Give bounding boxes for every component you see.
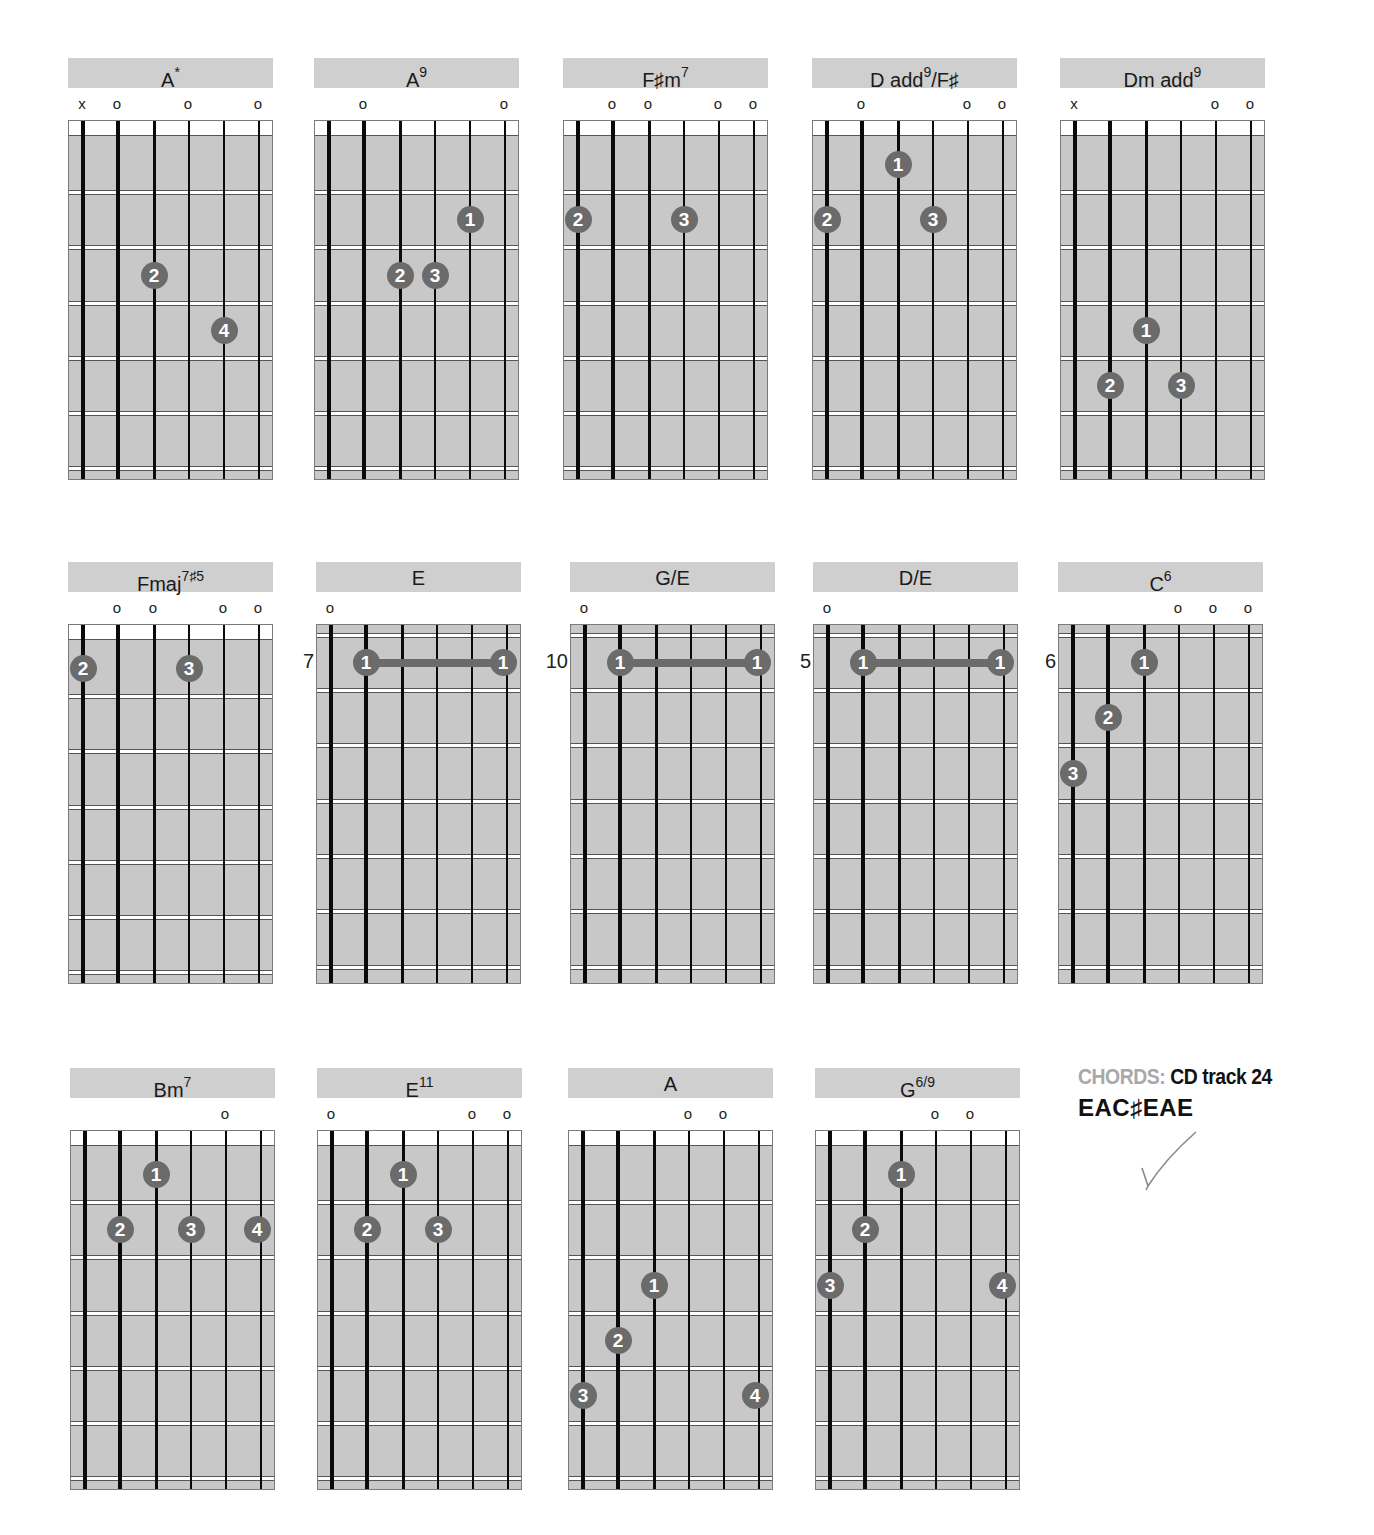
chord-root: A — [664, 1073, 677, 1095]
guitar-string — [364, 625, 368, 983]
fret-line — [571, 909, 774, 914]
guitar-string — [760, 625, 761, 983]
guitar-string — [1215, 121, 1217, 479]
finger-dot: 2 — [814, 206, 841, 233]
fret-line — [1061, 466, 1264, 471]
chord-diagram-d-over-e: D/Eo115 — [813, 562, 1018, 992]
guitar-string — [648, 121, 651, 479]
fret-line — [816, 1366, 1019, 1371]
finger-dot: 1 — [888, 1161, 915, 1188]
nut — [71, 1131, 274, 1146]
chord-name: D/E — [813, 562, 1018, 592]
fret-line — [315, 190, 518, 195]
fret-line — [317, 854, 520, 859]
finger-dot: 1 — [457, 206, 484, 233]
guitar-string — [1106, 625, 1110, 983]
chords-caption: CHORDS: CD track 24 EAC♯EAE — [1078, 1064, 1298, 1122]
chord-name: E — [316, 562, 521, 592]
chord-extension: 9 — [419, 64, 427, 80]
guitar-string — [436, 625, 439, 983]
guitar-string — [153, 625, 156, 983]
open-string-icon: o — [322, 600, 338, 616]
guitar-string — [1180, 121, 1183, 479]
fret-line — [315, 245, 518, 250]
fretboard: 123 — [1058, 624, 1263, 984]
guitar-string — [365, 1131, 369, 1489]
fret-position-label: 5 — [791, 650, 811, 673]
fretboard: 11 — [813, 624, 1018, 984]
finger-dot: 1 — [353, 649, 380, 676]
open-string-icon: o — [853, 96, 869, 112]
muted-string-icon: x — [1066, 96, 1082, 112]
finger-dot: 3 — [671, 206, 698, 233]
open-string-icon: o — [1205, 600, 1221, 616]
string-markers: o — [70, 1106, 275, 1124]
fret-line — [1061, 301, 1264, 306]
fret-line — [814, 909, 1017, 914]
fret-line — [569, 1200, 772, 1205]
fret-line — [317, 909, 520, 914]
fret-line — [315, 466, 518, 471]
guitar-string — [153, 121, 156, 479]
fret-line — [814, 633, 1017, 638]
open-string-icon: o — [180, 96, 196, 112]
chord-name: G6/9 — [815, 1068, 1020, 1098]
fret-line — [569, 1255, 772, 1260]
guitar-string — [190, 1131, 193, 1489]
guitar-string — [826, 625, 830, 983]
fret-line — [69, 970, 272, 975]
open-string-icon: o — [576, 600, 592, 616]
guitar-string — [967, 121, 969, 479]
string-markers: xoo — [1060, 96, 1265, 114]
open-string-icon: o — [962, 1106, 978, 1122]
chord-diagram-g6-9: G6/9oo1234 — [815, 1068, 1020, 1498]
fret-line — [71, 1200, 274, 1205]
chord-diagram-e11: E11ooo123 — [317, 1068, 522, 1498]
guitar-string — [83, 1131, 87, 1489]
finger-dot: 3 — [1060, 760, 1087, 787]
chord-diagram-a-star: A*xooo24 — [68, 58, 273, 488]
fret-line — [814, 688, 1017, 693]
guitar-string — [1248, 625, 1249, 983]
chord-name: F♯m7 — [563, 58, 768, 88]
fret-line — [569, 1476, 772, 1481]
fret-line — [318, 1200, 521, 1205]
guitar-string — [898, 625, 901, 983]
finger-dot: 3 — [570, 1382, 597, 1409]
guitar-string — [223, 121, 225, 479]
nut — [318, 1131, 521, 1146]
chord-root: F♯m — [642, 69, 681, 91]
fretboard: 1234 — [815, 1130, 1020, 1490]
guitar-string — [1073, 121, 1077, 479]
fret-line — [71, 1366, 274, 1371]
fret-line — [571, 965, 774, 970]
open-string-icon: o — [250, 600, 266, 616]
fret-line — [569, 1311, 772, 1316]
finger-dot: 2 — [387, 262, 414, 289]
guitar-string — [581, 1131, 585, 1489]
guitar-string — [935, 1131, 938, 1489]
finger-dot: 4 — [742, 1382, 769, 1409]
fretboard: 123 — [1060, 120, 1265, 480]
guitar-string — [616, 1131, 620, 1489]
fret-line — [564, 190, 767, 195]
finger-dot: 2 — [852, 1216, 879, 1243]
guitar-string — [611, 121, 615, 479]
chord-root: C — [1149, 573, 1163, 595]
guitar-string — [690, 625, 693, 983]
fret-line — [71, 1255, 274, 1260]
finger-dot: 3 — [176, 655, 203, 682]
fret-line — [69, 190, 272, 195]
fretboard: 123 — [314, 120, 519, 480]
nut — [569, 1131, 772, 1146]
guitar-string — [116, 625, 120, 983]
fret-line — [814, 743, 1017, 748]
fret-line — [813, 411, 1016, 416]
chord-name: Dm add9 — [1060, 58, 1265, 88]
finger-dot: 1 — [641, 1272, 668, 1299]
guitar-string — [825, 121, 829, 479]
muted-string-icon: x — [74, 96, 90, 112]
chord-diagram-fsharp-m7: F♯m7oooo23 — [563, 58, 768, 488]
guitar-string — [861, 625, 865, 983]
chord-root: D/E — [899, 567, 932, 589]
